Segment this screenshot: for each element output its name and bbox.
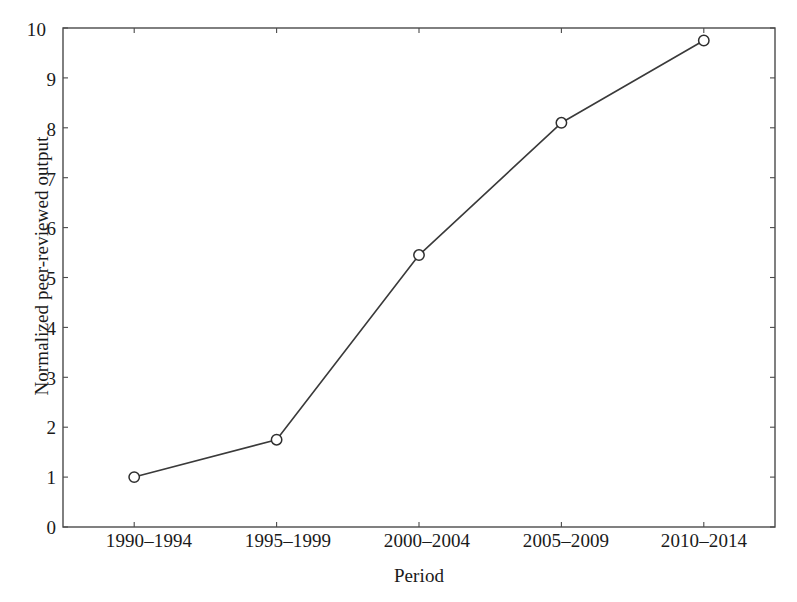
data-point-2000–2004 — [414, 250, 424, 260]
x-tick-label-1: 1995–1999 — [208, 531, 368, 551]
data-point-2005–2009 — [556, 118, 566, 128]
y-tick-label-5: 5 — [16, 269, 56, 288]
y-tick-label-6: 6 — [16, 219, 56, 238]
x-axis-title: Period — [63, 565, 775, 587]
y-tick-label-1: 1 — [16, 468, 56, 487]
data-point-1995–1999 — [271, 434, 281, 444]
y-tick-label-3: 3 — [16, 369, 56, 388]
data-point-1990–1994 — [129, 472, 139, 482]
line-chart-figure: Normalized peer-reviewed output Period 0… — [0, 0, 797, 602]
data-markers — [129, 35, 709, 482]
y-tick-label-0: 0 — [16, 518, 56, 537]
y-axis-ticks — [63, 28, 775, 527]
x-tick-label-0: 1990–1994 — [69, 531, 229, 551]
x-axis-ticks — [134, 28, 704, 527]
y-tick-label-4: 4 — [16, 319, 56, 338]
y-tick-label-9: 9 — [16, 70, 56, 89]
y-tick-label-10: 10 — [6, 20, 46, 39]
x-tick-label-2: 2000–2004 — [347, 531, 507, 551]
y-tick-label-7: 7 — [16, 170, 56, 189]
x-tick-label-3: 2005–2009 — [486, 531, 646, 551]
y-tick-label-2: 2 — [16, 418, 56, 437]
y-tick-label-8: 8 — [16, 120, 56, 139]
plot-area — [0, 0, 797, 602]
y-axis-title: Normalized peer-reviewed output — [28, 16, 56, 516]
data-point-2010–2014 — [699, 35, 709, 45]
x-tick-label-4: 2010–2014 — [624, 531, 784, 551]
plot-frame — [63, 28, 775, 527]
